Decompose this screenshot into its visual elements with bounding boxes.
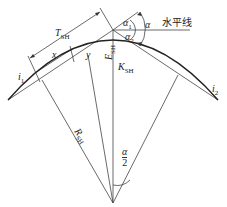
label-x: x <box>52 50 56 60</box>
label-i2: i2 <box>212 84 218 97</box>
label-T: TSH <box>55 28 70 41</box>
label-K: KSH <box>118 62 134 75</box>
radius-right <box>113 75 178 203</box>
label-horizontal-line: 水平线 <box>162 18 192 28</box>
label-E: ESH <box>104 45 117 60</box>
label-half-alpha: α2 <box>122 147 127 168</box>
label-alpha: α <box>145 20 150 30</box>
label-y: y <box>86 50 90 60</box>
label-alpha2: α2 <box>125 32 134 45</box>
label-i1: i1 <box>18 72 24 85</box>
diagram-canvas <box>0 0 227 207</box>
label-alpha1: α1 <box>123 18 132 31</box>
